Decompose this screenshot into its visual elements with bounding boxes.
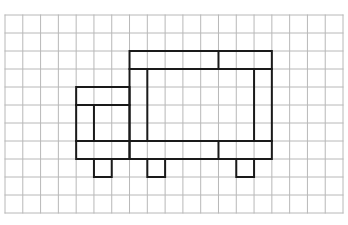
wheel-2: [147, 159, 165, 177]
grid-drawing: [0, 0, 348, 225]
wheel-3: [236, 159, 254, 177]
wheel-1: [94, 159, 112, 177]
grid-lines: [5, 15, 343, 213]
truck-figure: [76, 51, 272, 177]
